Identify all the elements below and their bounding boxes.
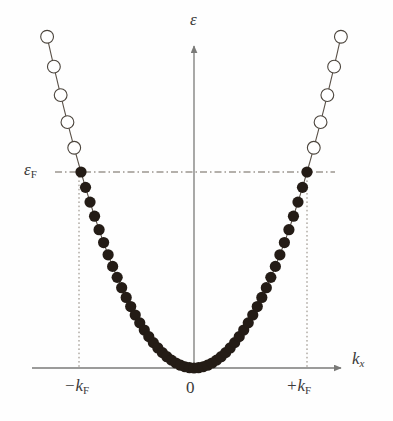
- unoccupied-state-marker: [307, 141, 320, 154]
- occupied-state-marker: [93, 224, 104, 235]
- occupied-state-marker: [112, 272, 123, 283]
- kf-positive-label-base: +k: [286, 376, 305, 395]
- occupied-state-marker: [103, 249, 114, 260]
- kf-positive-label: +kF: [286, 377, 311, 394]
- occupied-state-marker: [265, 272, 276, 283]
- occupied-state-marker: [261, 282, 272, 293]
- occupied-state-marker: [301, 166, 312, 177]
- unoccupied-state-marker: [321, 89, 334, 102]
- x-axis-label-base: k: [352, 349, 360, 368]
- fermi-energy-label-subscript: F: [31, 168, 37, 180]
- fermi-energy-label: εF: [24, 161, 37, 178]
- fermi-energy-label-base: ε: [24, 160, 31, 179]
- occupied-state-marker: [107, 261, 118, 272]
- unoccupied-state-marker: [47, 60, 60, 73]
- plot-canvas: [0, 0, 393, 421]
- occupied-state-marker: [89, 211, 100, 222]
- occupied-state-marker: [270, 261, 281, 272]
- unoccupied-state-marker: [328, 60, 341, 73]
- y-axis-label: ε: [190, 11, 197, 28]
- occupied-state-marker: [75, 166, 86, 177]
- occupied-state-marker: [84, 197, 95, 208]
- occupied-state-marker: [116, 282, 127, 293]
- dispersion-relation-figure: ε kx εF −kF 0 +kF: [0, 0, 393, 421]
- x-axis-label: kx: [352, 350, 364, 367]
- kf-negative-label: −kF: [64, 377, 89, 394]
- kf-negative-label-subscript: F: [83, 384, 89, 396]
- unoccupied-state-marker: [61, 116, 74, 129]
- unoccupied-state-marker: [54, 89, 67, 102]
- unoccupied-state-marker: [68, 141, 81, 154]
- occupied-state-marker: [288, 211, 299, 222]
- unoccupied-state-marker: [314, 116, 327, 129]
- occupied-state-marker: [292, 197, 303, 208]
- occupied-state-marker: [279, 237, 290, 248]
- kf-positive-label-subscript: F: [305, 384, 311, 396]
- unoccupied-state-marker: [335, 30, 348, 43]
- unoccupied-state-marker: [41, 30, 54, 43]
- occupied-state-marker: [80, 182, 91, 193]
- x-axis-label-subscript: x: [360, 357, 365, 369]
- occupied-state-marker: [256, 292, 267, 303]
- occupied-state-marker: [283, 224, 294, 235]
- occupied-state-marker: [274, 249, 285, 260]
- occupied-state-marker: [297, 182, 308, 193]
- kf-negative-label-base: −k: [64, 376, 83, 395]
- occupied-state-marker: [98, 237, 109, 248]
- origin-label: 0: [186, 379, 195, 396]
